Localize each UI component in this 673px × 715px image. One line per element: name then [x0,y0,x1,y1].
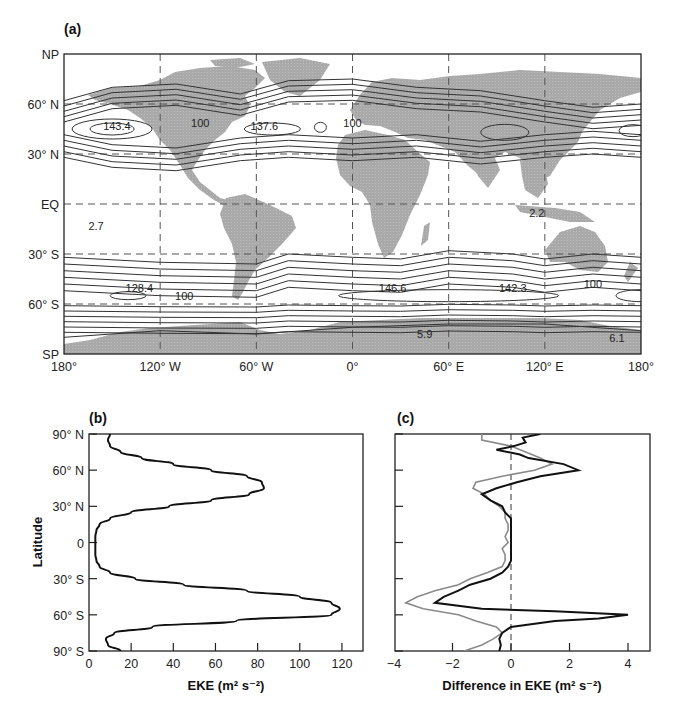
contour-value-label: 5.9 [417,328,432,340]
map-x-tick-label: 60° E [433,360,464,374]
panel-b-x-tick-label: 40 [166,657,180,671]
panel-c: (c) −4−2024 Difference in EKE (m² s⁻²) [387,410,650,693]
landmass-arctic-islands [210,58,255,68]
map-y-tick-label: 60° S [28,298,59,312]
panel-c-label: (c) [397,410,414,426]
landmass-new-zealand [624,262,638,282]
map-x-tick-label: 180° [51,360,77,374]
map-x-tick-label: 120° E [526,360,564,374]
contour-value-label: 100 [175,290,193,302]
panel-b-x-axis-title: EKE (m² s⁻²) [188,678,265,693]
contour-value-label: 143.4 [103,120,131,132]
panel-b-y-tick-label: 30° N [53,500,84,514]
difference-line-black [435,434,628,651]
contour-line [64,315,641,318]
panel-c-x-tick-label: −2 [445,657,459,671]
map-y-axis-labels: NP60° N30° NEQ30° S60° SSP [28,48,60,362]
panel-c-x-tick-label: −4 [387,657,401,671]
contour-value-label: 100 [584,278,602,290]
panel-c-x-tick-label: 0 [508,657,515,671]
contour-value-label: 137.6 [251,120,279,132]
landmass-madagascar [421,222,430,246]
panel-b-x-tick-label: 20 [124,657,138,671]
panel-b-y-tick-label: 30° S [53,573,84,587]
contour-value-label: 100 [343,117,361,129]
panel-c-frame [395,434,650,651]
panel-a: (a) [28,21,666,374]
panel-b-y-axis-title: Latitude [30,517,45,568]
map-y-tick-label: 30° N [28,148,59,162]
figure-canvas: (a) [0,0,673,715]
contour-value-label: 146.6 [379,282,407,294]
map-y-tick-label: EQ [41,198,59,212]
contour-ellipse-n-atlantic-small [314,122,326,132]
panel-b-label: (b) [89,410,107,426]
contour-ellipse-date-line [619,125,647,137]
contour-value-label: 2.7 [88,220,103,232]
difference-line-grey [406,434,552,651]
panel-c-x-axis-title: Difference in EKE (m² s⁻²) [442,678,601,693]
landmass-south-america [220,194,296,300]
map-y-tick-label: 60° N [28,98,59,112]
eke-zonal-mean-line [95,434,339,651]
panel-b-ticks: 90° N60° N30° N030° S60° S90° S020406080… [53,428,353,671]
panel-b-x-tick-label: 100 [289,657,310,671]
map-x-tick-label: 180° [628,360,654,374]
panel-b-frame [89,434,363,651]
panel-a-label: (a) [64,21,81,37]
map-y-tick-label: 30° S [28,248,59,262]
panel-b-y-tick-label: 90° S [53,645,84,659]
panel-b-x-tick-label: 120 [331,657,352,671]
panel-b-y-tick-label: 0 [77,537,84,551]
panel-b-y-tick-label: 90° N [53,428,84,442]
panel-b-x-tick-label: 0 [86,657,93,671]
map-x-tick-label: 0° [347,360,359,374]
panel-b-y-tick-label: 60° S [53,609,84,623]
map-x-tick-label: 120° W [140,360,181,374]
panel-b: (b) 90° N60° N30° N030° S60° S90° S02040… [30,410,363,693]
map-x-tick-label: 60° W [239,360,273,374]
panel-c-x-tick-label: 2 [566,657,573,671]
contour-value-label: 100 [191,117,209,129]
map-y-tick-label: NP [42,48,59,62]
contour-value-label: 2.2 [529,207,544,219]
contour-value-label: 128.4 [126,282,154,294]
map-x-axis-labels: 180°120° W60° W0°60° E120° E180° [51,360,654,374]
panel-c-ticks: −4−2024 [387,434,632,671]
panel-b-x-tick-label: 60 [209,657,223,671]
contour-value-label: 6.1 [609,332,624,344]
panel-b-y-tick-label: 60° N [53,464,84,478]
panel-b-x-tick-label: 80 [251,657,265,671]
contour-value-label: 142.3 [499,282,527,294]
panel-c-x-tick-label: 4 [625,657,632,671]
